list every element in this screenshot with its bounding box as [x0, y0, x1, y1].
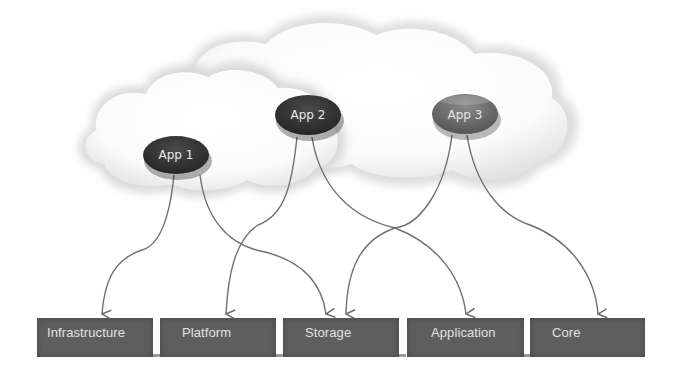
layer-connector-notch	[153, 354, 160, 357]
connector-app1-infrastructure	[102, 175, 174, 314]
layer-infrastructure[interactable]: Infrastructure	[37, 318, 153, 357]
layer-connector-notch	[276, 354, 283, 357]
diagram-canvas: App 1 App 2 App 3 Infrastructure Platfor…	[0, 0, 675, 380]
layer-storage[interactable]: Storage	[283, 318, 399, 357]
layer-core-label: Core	[530, 325, 645, 340]
app3-label: App 3	[448, 108, 483, 122]
app1-label: App 1	[159, 148, 194, 162]
layer-infrastructure-label: Infrastructure	[37, 325, 153, 340]
layer-core[interactable]: Core	[530, 318, 645, 357]
layer-application[interactable]: Application	[407, 318, 524, 357]
layer-connector-notch	[399, 354, 406, 357]
connector-app1-storage	[200, 175, 326, 314]
layer-platform-label: Platform	[160, 325, 276, 340]
layer-storage-label: Storage	[283, 325, 399, 340]
layer-application-label: Application	[407, 325, 524, 340]
layer-platform[interactable]: Platform	[160, 318, 276, 357]
app2-label: App 2	[291, 108, 326, 122]
